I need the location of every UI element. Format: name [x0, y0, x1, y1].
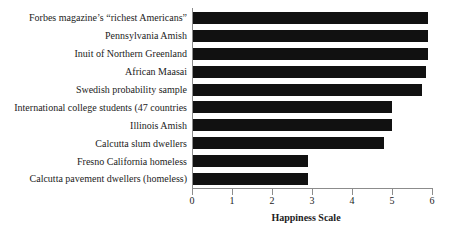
bar-row: Illinois Amish	[0, 116, 432, 134]
x-axis-tick-label: 6	[422, 195, 442, 206]
x-axis-tick	[312, 188, 313, 195]
bar-track	[192, 84, 432, 96]
x-axis-tick-label: 3	[302, 195, 322, 206]
bar	[192, 119, 392, 131]
bar-track	[192, 101, 432, 113]
bar-track	[192, 30, 432, 42]
x-axis-tick	[272, 188, 273, 195]
bar-track	[192, 137, 432, 149]
bar-track	[192, 155, 432, 167]
bar-track	[192, 66, 432, 78]
x-axis-tick	[352, 188, 353, 195]
x-axis-tick	[432, 188, 433, 195]
bar-row: Calcutta slum dwellers	[0, 134, 432, 152]
happiness-bar-chart: Forbes magazine’s “richest Americans”Pen…	[0, 0, 453, 237]
category-label: Pennsylvania Amish	[0, 30, 192, 41]
bar-row: Forbes magazine’s “richest Americans”	[0, 9, 432, 27]
bar	[192, 66, 426, 78]
category-label: Fresno California homeless	[0, 156, 192, 167]
bar	[192, 30, 428, 42]
x-axis-tick-label: 4	[342, 195, 362, 206]
bar	[192, 84, 422, 96]
bar	[192, 101, 392, 113]
bar-rows: Forbes magazine’s “richest Americans”Pen…	[0, 9, 432, 188]
bar-row: Swedish probability sample	[0, 81, 432, 99]
category-label: African Maasai	[0, 66, 192, 77]
category-label: Illinois Amish	[0, 120, 192, 131]
category-label: Forbes magazine’s “richest Americans”	[0, 12, 192, 23]
bar	[192, 48, 428, 60]
bar-track	[192, 119, 432, 131]
x-axis-tick	[232, 188, 233, 195]
x-axis-tick	[192, 188, 193, 195]
bar-track	[192, 173, 432, 185]
category-label: Inuit of Northern Greenland	[0, 48, 192, 59]
category-label: Swedish probability sample	[0, 84, 192, 95]
bar-track	[192, 48, 432, 60]
x-axis-tick-label: 1	[222, 195, 242, 206]
bar-row: African Maasai	[0, 63, 432, 81]
bar	[192, 155, 308, 167]
category-label: Calcutta slum dwellers	[0, 138, 192, 149]
bar-track	[192, 12, 432, 24]
bar-row: Fresno California homeless	[0, 152, 432, 170]
category-label: International college students (47 count…	[0, 102, 192, 113]
bar-row: Inuit of Northern Greenland	[0, 45, 432, 63]
bar	[192, 12, 428, 24]
bar-row: International college students (47 count…	[0, 98, 432, 116]
category-label: Calcutta pavement dwellers (homeless)	[0, 173, 192, 184]
bar-row: Calcutta pavement dwellers (homeless)	[0, 170, 432, 188]
x-axis-title: Happiness Scale	[186, 212, 426, 223]
x-axis-tick-label: 0	[182, 195, 202, 206]
bar	[192, 173, 308, 185]
x-axis-tick	[392, 188, 393, 195]
bar	[192, 137, 384, 149]
y-axis-line	[192, 8, 193, 188]
bar-row: Pennsylvania Amish	[0, 27, 432, 45]
x-axis-tick-label: 2	[262, 195, 282, 206]
x-axis-tick-label: 5	[382, 195, 402, 206]
